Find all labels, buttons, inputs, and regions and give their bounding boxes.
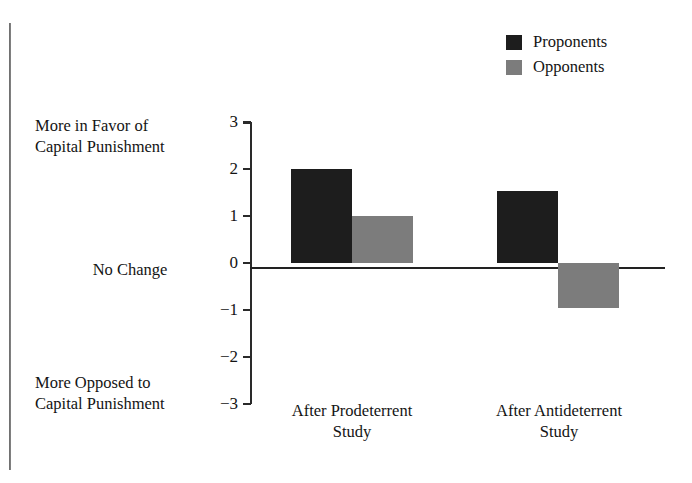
y-axis-tick-2 — [243, 215, 251, 217]
bar-proponents-group1 — [497, 191, 558, 263]
x-category-label-1-line2: Study — [454, 421, 664, 442]
x-category-label-0-line2: Study — [247, 421, 457, 442]
x-category-label-0: After Prodeterrent Study — [247, 400, 457, 442]
y-axis-tick-1 — [243, 168, 251, 170]
y-annotation-middle-line1: No Change — [35, 259, 225, 280]
bar-chart-figure: Proponents Opponents 3210−1−2−3 More in … — [0, 0, 692, 483]
y-axis-tick-0 — [243, 121, 251, 123]
bar-proponents-group0 — [291, 169, 352, 263]
y-axis-tick-4 — [243, 309, 251, 311]
y-annotation-middle: No Change — [35, 259, 225, 280]
y-axis-tick-label-1: 2 — [194, 160, 238, 177]
y-annotation-bottom: More Opposed to Capital Punishment — [35, 372, 225, 414]
x-category-label-0-line1: After Prodeterrent — [247, 400, 457, 421]
y-axis-tick-label-5: −2 — [194, 348, 238, 365]
bar-opponents-group0 — [352, 216, 413, 263]
x-category-label-1: After Antideterrent Study — [454, 400, 664, 442]
y-annotation-top-line1: More in Favor of — [35, 115, 225, 136]
bar-opponents-group1 — [558, 263, 619, 308]
y-axis-tick-label-4: −1 — [194, 301, 238, 318]
y-annotation-top: More in Favor of Capital Punishment — [35, 115, 225, 157]
y-annotation-bottom-line2: Capital Punishment — [35, 393, 225, 414]
x-category-label-1-line1: After Antideterrent — [454, 400, 664, 421]
y-axis-tick-5 — [243, 356, 251, 358]
y-axis-tick-label-2: 1 — [194, 207, 238, 224]
y-annotation-top-line2: Capital Punishment — [35, 136, 225, 157]
plot-area: 3210−1−2−3 More in Favor of Capital Puni… — [0, 0, 692, 483]
y-annotation-bottom-line1: More Opposed to — [35, 372, 225, 393]
y-axis-tick-3 — [243, 262, 251, 264]
